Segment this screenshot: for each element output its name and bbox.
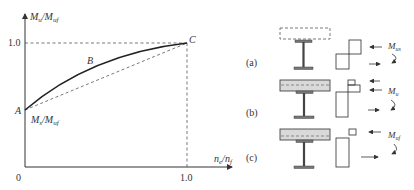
section-c-label: (c) bbox=[246, 152, 257, 164]
y-tick-1: 1.0 bbox=[8, 37, 21, 48]
moment-arrow bbox=[391, 100, 395, 110]
stress-block-slab bbox=[349, 129, 356, 135]
point-c-label: C bbox=[189, 34, 196, 45]
bottom-flange bbox=[294, 116, 314, 119]
origin-label: 0 bbox=[16, 172, 21, 183]
stress-block-tension bbox=[336, 138, 349, 167]
section-c: (c) Muf bbox=[246, 129, 402, 169]
stress-block-top bbox=[349, 40, 361, 54]
point-a-label: A bbox=[14, 105, 22, 116]
stress-block-bottom bbox=[336, 54, 349, 69]
moment-label-c: Muf bbox=[387, 130, 402, 141]
y-axis-label: Mu/Muf bbox=[29, 11, 59, 24]
moment-label-b: Mu bbox=[387, 86, 399, 97]
stress-block-tension bbox=[336, 92, 348, 117]
moment-arrow bbox=[392, 144, 397, 154]
stress-block-flange bbox=[348, 85, 360, 92]
concrete-slab bbox=[280, 80, 330, 91]
moment-arrow bbox=[392, 54, 396, 63]
section-a-label: (a) bbox=[246, 57, 257, 69]
concrete-slab bbox=[280, 129, 330, 140]
bottom-flange bbox=[294, 166, 314, 169]
diagram-canvas: 1.0 1.0 0 Mu/Muf ne/nf A B C Ms/Muf (a) bbox=[0, 0, 414, 190]
section-b: (b) Mu bbox=[246, 80, 399, 119]
point-b-label: B bbox=[87, 55, 93, 66]
bottom-flange bbox=[294, 67, 313, 70]
linear-line-ac bbox=[25, 43, 187, 110]
x-tick-1: 1.0 bbox=[180, 172, 193, 183]
x-axis-label: ne/nf bbox=[214, 153, 233, 166]
section-b-label: (b) bbox=[246, 107, 258, 119]
interaction-chart: 1.0 1.0 0 Mu/Muf ne/nf A B C Ms/Muf bbox=[8, 11, 233, 183]
slab-outline-dashed bbox=[280, 28, 330, 39]
section-a: (a) Mus bbox=[246, 28, 402, 70]
moment-label-a: Mus bbox=[387, 41, 402, 52]
stress-block-slab bbox=[348, 80, 355, 85]
a-value-label: Ms/Muf bbox=[30, 114, 60, 127]
